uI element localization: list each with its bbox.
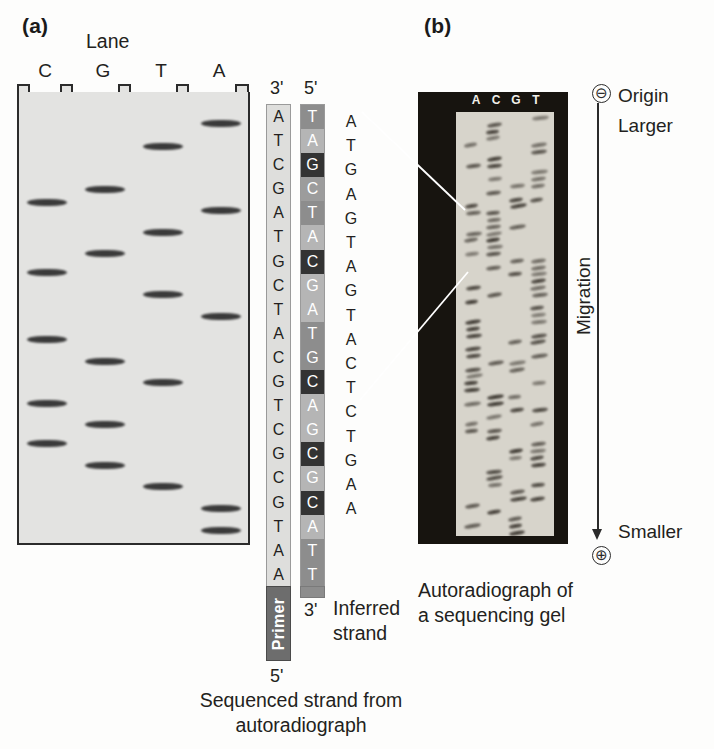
lane-title: Lane xyxy=(86,30,129,53)
autoradiograph-lane-label-T: T xyxy=(528,93,544,107)
inferred-base: G xyxy=(301,466,324,490)
gel-band-G xyxy=(85,421,125,428)
autoradiograph-band xyxy=(486,475,503,482)
autoradiograph-band xyxy=(532,292,548,298)
inferred-base: T xyxy=(301,201,324,225)
inferred-base: G xyxy=(301,346,324,370)
autoradiograph-band xyxy=(464,237,478,243)
autoradiograph-band xyxy=(531,441,547,447)
autoradiograph-band xyxy=(487,156,502,162)
sequenced-base: T xyxy=(267,129,290,153)
primer-5prime-label: 5' xyxy=(270,666,283,687)
autoradiograph-sequence-base: A xyxy=(341,328,361,352)
autoradiograph-sequence-base: G xyxy=(341,207,361,231)
autoradiograph-band xyxy=(465,367,482,373)
positive-pole-symbol: ⊕ xyxy=(592,546,611,565)
autoradiograph-band xyxy=(508,339,523,345)
autoradiograph-band xyxy=(531,183,546,189)
autoradiograph-band xyxy=(532,381,547,386)
autoradiograph-band xyxy=(465,428,478,433)
autoradiograph-band xyxy=(487,509,502,515)
autoradiograph-band xyxy=(486,190,501,196)
autoradiograph-sequence-base: T xyxy=(341,376,361,400)
autoradiograph-lane-label-A: A xyxy=(468,93,484,107)
autoradiograph-band xyxy=(531,149,547,155)
gel-band-T xyxy=(143,483,183,490)
autoradiograph-band xyxy=(486,469,503,475)
autoradiograph-sequence-base: A xyxy=(341,497,361,521)
autoradiograph-band xyxy=(531,176,546,182)
sequenced-base: C xyxy=(267,274,290,298)
inferred-base: A xyxy=(301,394,324,418)
autoradiograph-band xyxy=(509,448,524,454)
autoradiograph-lane-labels: ACGT xyxy=(418,92,568,112)
autoradiograph-band xyxy=(464,387,480,392)
autoradiograph-band xyxy=(531,462,547,468)
autoradiograph-band xyxy=(509,455,523,460)
inferred-base: A xyxy=(301,129,324,153)
inferred-strand-3prime-label: 3' xyxy=(304,600,317,621)
autoradiograph-band xyxy=(486,224,501,230)
gel-band-T xyxy=(143,379,183,386)
autoradiograph-band xyxy=(488,483,502,488)
origin-label: Origin xyxy=(618,85,669,107)
autoradiograph-band xyxy=(486,251,501,257)
autoradiograph-sequence-base: A xyxy=(341,255,361,279)
autoradiograph-band xyxy=(486,237,501,243)
sequenced-base: T xyxy=(267,298,290,322)
autoradiograph-band xyxy=(466,163,481,169)
sequenced-base: G xyxy=(267,442,290,466)
autoradiograph-band xyxy=(464,401,481,407)
autoradiograph-sequence-base: G xyxy=(341,279,361,303)
lane-label-T: T xyxy=(148,60,174,82)
autoradiograph-band xyxy=(486,414,503,421)
migration-axis-line xyxy=(597,103,599,533)
larger-label: Larger xyxy=(618,115,673,137)
primer-label: Primer xyxy=(270,597,288,650)
autoradiograph-sequence-base: A xyxy=(341,110,361,134)
autoradiograph-band xyxy=(486,401,503,407)
inferred-strand-foot xyxy=(300,586,325,598)
autoradiograph-band xyxy=(530,496,546,502)
autoradiograph-band xyxy=(465,346,481,352)
autoradiograph-band xyxy=(530,285,547,292)
sequenced-base: G xyxy=(267,370,290,394)
sequenced-base: G xyxy=(267,491,290,515)
sequenced-base: T xyxy=(267,225,290,249)
autoradiograph-band xyxy=(509,203,526,210)
autoradiograph-band xyxy=(531,483,545,488)
gel-band-G xyxy=(85,462,125,469)
autoradiograph-band xyxy=(486,129,499,135)
gel-band-G xyxy=(85,250,125,257)
autoradiograph-band xyxy=(464,142,478,148)
inferred-base: C xyxy=(301,177,324,201)
panel-b-letter: (b) xyxy=(424,14,451,38)
sequenced-base: A xyxy=(267,322,290,346)
gel-band-A xyxy=(201,207,241,214)
lane-label-A: A xyxy=(206,60,232,82)
inferred-strand-5prime-label: 5' xyxy=(304,78,317,99)
autoradiograph-band xyxy=(530,319,547,324)
autoradiograph-band xyxy=(466,373,483,380)
autoradiograph-band xyxy=(509,196,524,202)
sequenced-base: A xyxy=(267,201,290,225)
autoradiograph-band xyxy=(486,135,501,142)
autoradiograph-band xyxy=(530,448,546,454)
sequenced-base: A xyxy=(267,105,290,129)
sequenced-base: T xyxy=(267,394,290,418)
autoradiograph-band xyxy=(486,230,502,237)
sequencing-gel-panel-a xyxy=(17,92,250,545)
gel-band-A xyxy=(201,120,241,127)
autoradiograph-band xyxy=(488,360,504,366)
autoradiograph-sequence-base: A xyxy=(341,473,361,497)
autoradiograph-band xyxy=(487,122,503,128)
autoradiograph-band xyxy=(530,306,544,312)
gel-band-C xyxy=(27,336,67,343)
autoradiograph-band xyxy=(466,285,481,291)
autoradiograph-sequence-base: T xyxy=(341,304,361,328)
autoradiograph-band xyxy=(509,407,523,413)
inferred-base: C xyxy=(301,250,324,274)
autoradiograph-band xyxy=(464,502,480,509)
gel-band-A xyxy=(201,527,241,534)
panel-a-caption: Sequenced strand from autoradiograph xyxy=(196,688,406,738)
